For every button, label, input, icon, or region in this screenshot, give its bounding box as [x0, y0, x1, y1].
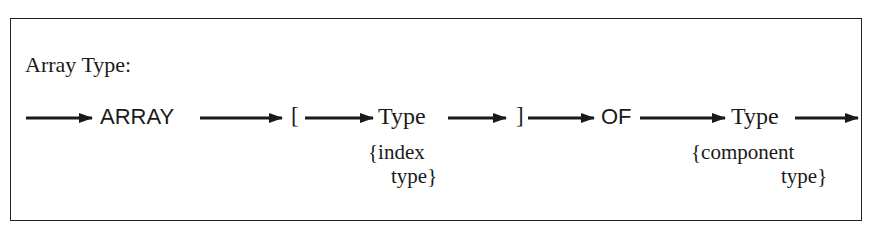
node-right-bracket: ] [516, 103, 524, 129]
note-component-line2: type} [781, 164, 827, 188]
note-index-line1: {index [368, 140, 425, 164]
node-left-bracket: [ [291, 103, 299, 129]
node-index-type: Type [378, 103, 426, 130]
node-array-keyword: ARRAY [100, 104, 174, 130]
note-component-line1: {component [691, 140, 794, 164]
node-of-keyword: OF [601, 104, 632, 130]
note-index-line2: type} [391, 164, 437, 188]
node-component-type: Type [731, 103, 779, 130]
